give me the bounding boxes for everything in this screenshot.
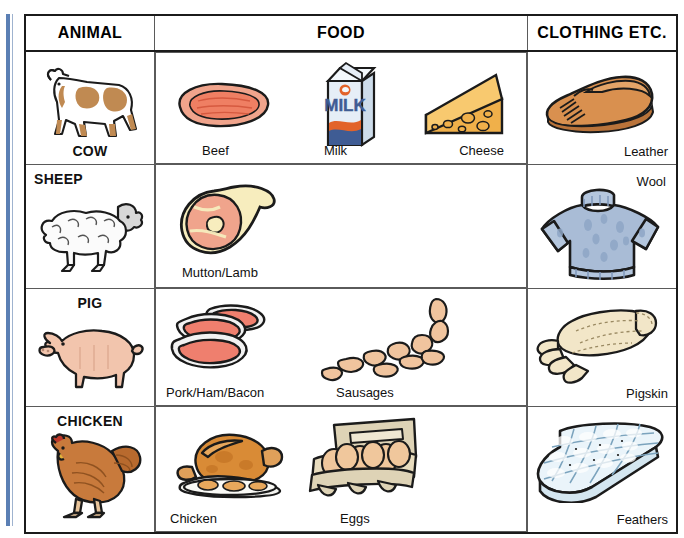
beef-steak-illustration	[170, 77, 278, 133]
cell-animal-chicken: CHICKEN	[25, 406, 155, 533]
cell-clothing-sheep: Wool	[528, 164, 678, 288]
table-row-pig: PIG	[25, 288, 677, 406]
table-row-sheep: SHEEP	[25, 164, 677, 288]
animal-name-sheep: SHEEP	[34, 172, 83, 186]
food-label-eggs: Eggs	[340, 512, 370, 525]
food-label-beef: Beef	[202, 144, 229, 157]
column-header-food: FOOD	[155, 15, 528, 51]
feather-duvet-illustration	[534, 421, 670, 503]
cheese-wedge-illustration	[418, 69, 510, 143]
cell-animal-cow: COW	[25, 51, 155, 164]
animal-name-chicken: CHICKEN	[57, 414, 123, 428]
animal-name-pig: PIG	[77, 296, 102, 310]
chicken-hen-illustration	[42, 433, 142, 519]
cell-clothing-pig: Pigskin	[528, 288, 678, 406]
sausages-illustration	[316, 295, 460, 385]
food-label-pork: Pork/Ham/Bacon	[166, 386, 264, 399]
pigskin-gloves-illustration	[536, 301, 668, 387]
table-body: COW Beef	[25, 51, 677, 533]
food-label-mutton-lamb: Mutton/Lamb	[182, 266, 258, 279]
egg-carton-illustration	[304, 415, 424, 503]
column-header-clothing: CLOTHING ETC.	[528, 15, 678, 51]
cell-food-pig: Pork/Ham/Bacon	[155, 288, 527, 406]
pork-chops-illustration	[164, 299, 290, 383]
milk-carton-illustration: MILK	[316, 61, 382, 149]
cell-food-chicken: Chicken	[155, 406, 527, 532]
food-label-milk: Milk	[324, 144, 347, 157]
table-row-chicken: CHICKEN	[25, 406, 677, 533]
wool-sweater-illustration	[534, 181, 670, 281]
food-label-sausages: Sausages	[336, 386, 394, 399]
cell-animal-pig: PIG	[25, 288, 155, 406]
header-row: ANIMAL FOOD CLOTHING ETC.	[25, 15, 677, 51]
food-label-chicken: Chicken	[170, 512, 217, 525]
binding-line-primary	[6, 14, 10, 526]
cell-animal-sheep: SHEEP	[25, 164, 155, 288]
clothing-label-pigskin: Pigskin	[626, 387, 668, 400]
table-row-cow: COW Beef	[25, 51, 677, 164]
animal-name-cow: COW	[72, 144, 107, 158]
svg-text:MILK: MILK	[324, 96, 366, 115]
cell-clothing-cow: Leather	[528, 51, 678, 164]
sheep-illustration	[32, 191, 148, 277]
cell-clothing-chicken: Feathers	[528, 406, 678, 533]
clothing-label-feathers: Feathers	[617, 513, 668, 526]
animal-products-table: ANIMAL FOOD CLOTHING ETC.	[24, 14, 678, 534]
table-sheet: ANIMAL FOOD CLOTHING ETC.	[24, 14, 676, 522]
binding-line-secondary	[12, 14, 13, 526]
cow-illustration	[35, 58, 145, 146]
lamb-leg-illustration	[174, 177, 286, 263]
pig-illustration	[36, 317, 146, 395]
table-header: ANIMAL FOOD CLOTHING ETC.	[25, 15, 677, 51]
leather-shoe-illustration	[540, 68, 664, 140]
column-header-animal: ANIMAL	[25, 15, 155, 51]
clothing-label-leather: Leather	[624, 145, 668, 158]
cell-food-cow: Beef MILK Milk	[155, 52, 527, 164]
food-label-cheese: Cheese	[459, 144, 504, 157]
roast-chicken-illustration	[172, 423, 292, 501]
cell-food-sheep: Mutton/Lamb	[155, 164, 527, 288]
